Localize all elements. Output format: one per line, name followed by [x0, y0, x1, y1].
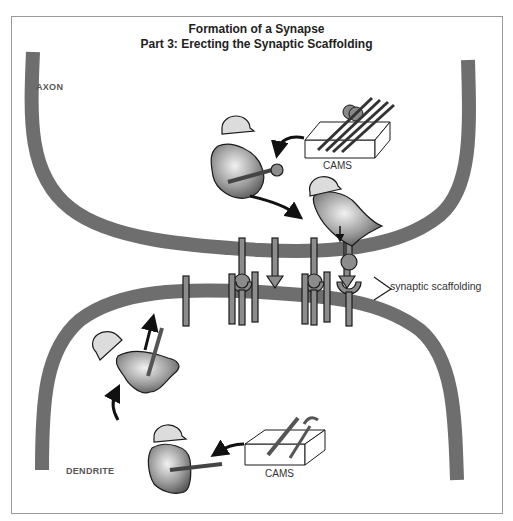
- axon-label: AXON: [36, 82, 63, 92]
- cams-box-top: [305, 98, 394, 158]
- worker-dendrite-carrier: [148, 425, 222, 493]
- cams-label-top: CAMS: [323, 160, 352, 171]
- cams-box-bottom: [245, 418, 325, 465]
- synaptic-scaffolding-label: synaptic scaffolding: [390, 280, 481, 292]
- scaffolding-bracket: [374, 277, 391, 300]
- worker-axon-carrier: [211, 116, 283, 198]
- worker-dendrite-inserter: [93, 328, 179, 393]
- cams-label-bottom: CAMS: [265, 468, 294, 479]
- dendrite-label: DENDRITE: [66, 466, 114, 476]
- worker-axon-inserter: [310, 177, 382, 246]
- synapse-illustration: [0, 0, 513, 521]
